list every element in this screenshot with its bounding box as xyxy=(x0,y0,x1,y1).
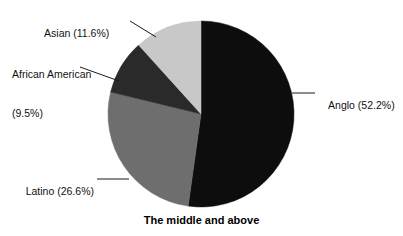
chart-caption: The middle and above xyxy=(0,214,403,226)
slice-label-african-american-line1: African American xyxy=(12,68,91,81)
slice-label-latino: Latino (26.6%) xyxy=(14,172,94,211)
slice-label-anglo: Anglo (52.2%) xyxy=(317,86,395,125)
pie-slice-anglo xyxy=(188,21,294,207)
slice-label-african-american: African American (9.5%) xyxy=(12,42,91,146)
leader-line-asian xyxy=(130,21,156,37)
slice-label-african-american-line2: (9.5%) xyxy=(12,107,91,120)
pie-chart-figure: Asian (11.6%) African American (9.5%) La… xyxy=(0,0,403,236)
slice-label-asian-text: Asian (11.6%) xyxy=(44,27,109,39)
slice-label-anglo-text: Anglo (52.2%) xyxy=(328,99,395,111)
slice-label-latino-text: Latino (26.6%) xyxy=(26,185,94,197)
pie-slices xyxy=(108,21,294,207)
